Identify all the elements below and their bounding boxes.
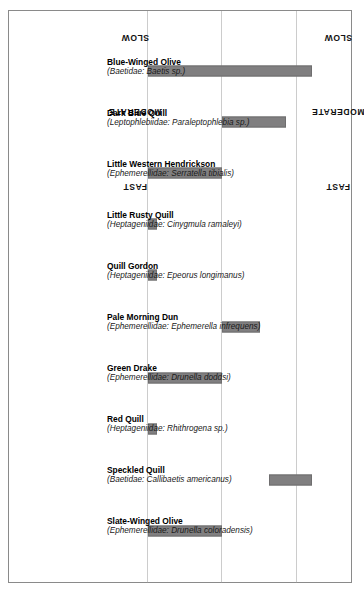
species-scientific-name: (Baetidae: Baetis sp.) xyxy=(107,66,137,76)
species-common-name: Speckled Quill xyxy=(107,464,137,474)
rotated-chart-container: FASTMODERATESLOW FASTMODERATESLOW Blue-W… xyxy=(9,11,351,582)
species-scientific-name: (Heptageniidae: Rhithrogena sp.) xyxy=(107,423,137,433)
axis-tick-slow-a: SLOW xyxy=(324,32,352,42)
species-common-name: Blue-Winged Olive xyxy=(107,56,137,66)
species-scientific-name: (Ephemerellidae: Ephemerella infrequens) xyxy=(107,321,137,331)
gridline-slow xyxy=(296,11,297,582)
species-common-name: Green Drake xyxy=(107,362,137,372)
axis-ticks-top: FASTMODERATESLOW xyxy=(325,11,351,582)
species-common-name: Slate-Winged Olive xyxy=(107,515,137,525)
bar xyxy=(269,474,312,485)
species-scientific-name: (Ephemerellidae: Drunella doddsi) xyxy=(107,372,137,382)
plot-region xyxy=(148,11,323,582)
species-scientific-name: (Baetidae: Callibaetis americanus) xyxy=(107,474,137,484)
species-common-name: Little Rusty Quill xyxy=(107,209,137,219)
species-label: Slate-Winged Olive(Ephemerellidae: Drune… xyxy=(107,515,137,593)
gridline-moderate xyxy=(221,11,222,582)
chart-area: FASTMODERATESLOW FASTMODERATESLOW Blue-W… xyxy=(9,11,351,582)
species-scientific-name: (Ephemerellidae: Drunella coloradensis) xyxy=(107,525,137,535)
species-common-name: Pale Morning Dun xyxy=(107,311,137,321)
species-scientific-name: (Ephemerellidae: Serratella tibialis) xyxy=(107,168,137,178)
species-common-name: Little Western Hendrickson xyxy=(107,158,137,168)
axis-tick-fast-a: FAST xyxy=(326,181,350,191)
figure-frame: FASTMODERATESLOW FASTMODERATESLOW Blue-W… xyxy=(8,10,352,583)
species-common-name: Red Quill xyxy=(107,413,137,423)
species-common-name: Quill Gordon xyxy=(107,260,137,270)
species-label-group: Blue-Winged Olive(Baetidae: Baetis sp.)D… xyxy=(9,11,137,582)
species-scientific-name: (Leptophlebiidae: Paraleptophlebia sp.) xyxy=(107,117,137,127)
species-common-name: Dark Blue Quill xyxy=(107,107,137,117)
species-scientific-name: (Heptageniidae: Cinygmula ramaleyi) xyxy=(107,219,137,229)
species-scientific-name: (Heptageniidae: Epeorus longimanus) xyxy=(107,270,137,280)
